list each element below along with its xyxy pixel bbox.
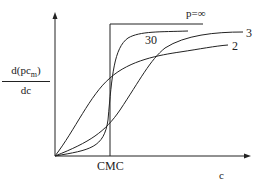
label-p-3: 3 [246, 27, 252, 39]
label-p-infinity: p=∞ [186, 8, 206, 19]
y-axis-label-denominator: dc [2, 82, 50, 96]
y-axis-label: d(pcm) dc [2, 64, 50, 96]
x-axis-label: c [219, 170, 224, 181]
y-axis-arrow-icon [53, 12, 58, 19]
curve-p-30 [55, 31, 188, 156]
y-axis-label-numerator: d(pcm) [2, 64, 50, 82]
label-p-2: 2 [232, 40, 238, 52]
curve-p-3 [55, 32, 243, 156]
label-p-30: 30 [145, 34, 157, 46]
curve-p-2 [55, 45, 228, 156]
label-cmc: CMC [97, 160, 124, 172]
x-axis-arrow-icon [244, 154, 251, 159]
diagram: p=∞ 30 3 2 CMC c d(pcm) dc [0, 0, 265, 184]
